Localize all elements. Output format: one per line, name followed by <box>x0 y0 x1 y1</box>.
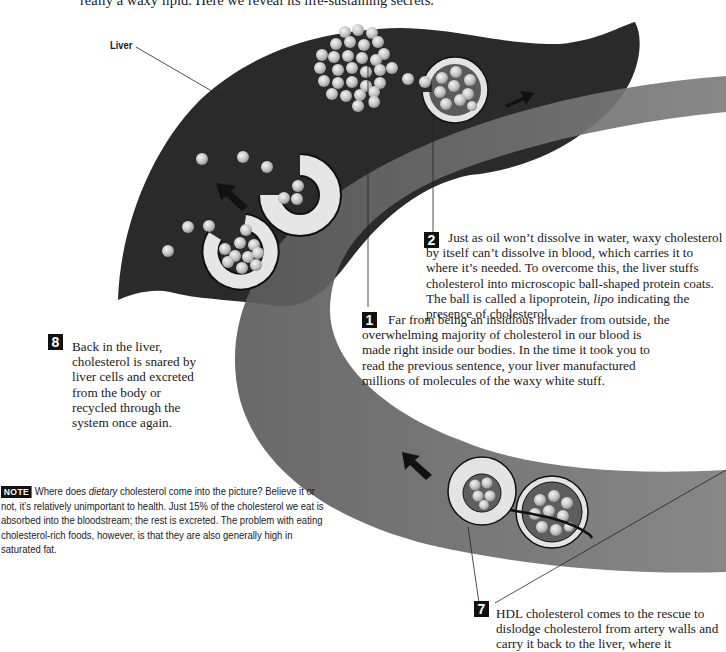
note-badge: NOTE <box>1 486 32 498</box>
intro-text: really a waxy lipid. Here we reveal its … <box>80 0 434 9</box>
note-box: NOTEWhere does dietary cholesterol come … <box>1 484 325 557</box>
step-8-text: Back in the liver, cholesterol is snared… <box>48 339 198 430</box>
step-8: 8 Back in the liver, cholesterol is snar… <box>48 334 198 430</box>
step-7-badge: 7 <box>474 601 489 617</box>
step-8-badge: 8 <box>48 334 63 350</box>
step-2-text: Just as oil won’t dissolve in water, wax… <box>426 230 726 321</box>
step-1-text: Far from being an insidious invader from… <box>362 312 672 388</box>
step-2-badge: 2 <box>424 232 439 248</box>
step-7: 7 HDL cholesterol comes to the rescue to… <box>474 601 726 652</box>
step-2: 2 Just as oil won’t dissolve in water, w… <box>426 230 726 321</box>
liver-label: Liver <box>110 39 132 51</box>
step-7-text: HDL cholesterol comes to the rescue to d… <box>474 606 726 652</box>
step-1: 1 Far from being an insidious invader fr… <box>362 312 672 388</box>
step-1-badge: 1 <box>362 312 377 328</box>
